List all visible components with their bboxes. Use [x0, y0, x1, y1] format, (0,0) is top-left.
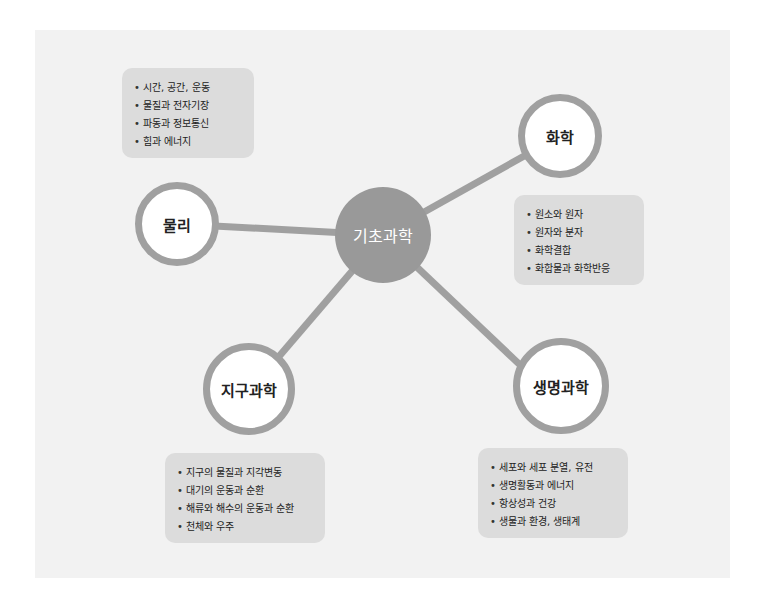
connector-lines [0, 0, 759, 611]
list-item: 파동과 정보통신 [134, 115, 242, 133]
list-item: 생물과 환경, 생태계 [490, 513, 616, 531]
list-item: 항상성과 건강 [490, 495, 616, 513]
node-label: 화학 [546, 126, 574, 147]
list-item: 원소와 원자 [526, 206, 632, 224]
list-item: 물질과 전자기장 [134, 97, 242, 115]
node-life-science: 생명과학 [513, 338, 609, 434]
topic-box-chemistry: 원소와 원자 원자와 분자 화학결합 화합물과 화학반응 [514, 195, 644, 285]
list-item: 원자와 분자 [526, 224, 632, 242]
node-earth-science: 지구과학 [203, 343, 295, 435]
list-item: 시간, 공간, 운동 [134, 79, 242, 97]
node-label: 생명과학 [533, 376, 589, 397]
node-chemistry: 화학 [518, 94, 602, 178]
topic-box-life-science: 세포와 세포 분열, 유전 생명활동과 에너지 항상성과 건강 생물과 환경, … [478, 448, 628, 538]
list-item: 세포와 세포 분열, 유전 [490, 459, 616, 477]
node-label: 물리 [163, 214, 191, 235]
node-physics: 물리 [135, 182, 219, 266]
list-item: 천체와 우주 [177, 518, 313, 536]
list-item: 대기의 운동과 순환 [177, 482, 313, 500]
node-label: 지구과학 [221, 379, 277, 400]
list-item: 화합물과 화학반응 [526, 260, 632, 278]
list-item: 화학결합 [526, 242, 632, 260]
list-item: 생명활동과 에너지 [490, 477, 616, 495]
list-item: 해류와 해수의 운동과 순환 [177, 500, 313, 518]
list-item: 지구의 물질과 지각변동 [177, 464, 313, 482]
topic-box-physics: 시간, 공간, 운동 물질과 전자기장 파동과 정보통신 힘과 에너지 [122, 68, 254, 158]
center-label: 기초과학 [353, 223, 413, 247]
topic-box-earth-science: 지구의 물질과 지각변동 대기의 운동과 순환 해류와 해수의 운동과 순환 천… [165, 453, 325, 543]
center-node: 기초과학 [335, 187, 431, 283]
list-item: 힘과 에너지 [134, 133, 242, 151]
